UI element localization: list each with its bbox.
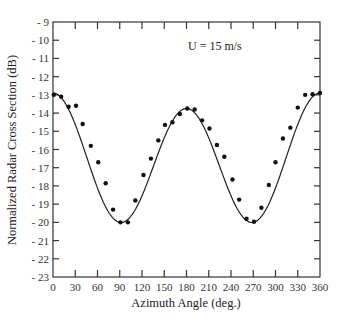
data-point: [230, 177, 234, 181]
x-tick-label: 150: [156, 281, 173, 293]
data-point: [185, 106, 189, 110]
plot-frame: [53, 22, 320, 277]
data-point: [288, 125, 292, 129]
data-point: [163, 123, 167, 127]
fit-curve: [53, 93, 320, 222]
x-tick-label: 180: [178, 281, 195, 293]
data-point: [178, 112, 182, 116]
data-point: [237, 197, 241, 201]
data-point: [80, 122, 84, 126]
data-point: [296, 105, 300, 109]
y-tick-label: - 18: [32, 180, 50, 192]
x-tick-label: 270: [245, 281, 262, 293]
x-tick-label: 210: [201, 281, 218, 293]
data-point: [207, 126, 211, 130]
y-tick-label: - 11: [32, 52, 49, 64]
y-tick-label: - 9: [37, 16, 49, 28]
data-point: [103, 181, 107, 185]
y-tick-label: - 12: [32, 71, 49, 83]
data-point: [200, 118, 204, 122]
y-tick-label: - 13: [32, 89, 50, 101]
data-point: [118, 220, 122, 224]
data-point: [133, 198, 137, 202]
x-tick-label: 240: [223, 281, 240, 293]
data-point: [89, 144, 93, 148]
data-point: [273, 160, 277, 164]
y-tick-label: - 16: [32, 144, 50, 156]
data-point: [222, 155, 226, 159]
x-tick-label: 30: [70, 281, 82, 293]
data-point: [259, 206, 263, 210]
data-point: [52, 93, 56, 97]
data-point: [96, 160, 100, 164]
y-tick-label: - 20: [32, 216, 50, 228]
x-tick-label: 60: [92, 281, 104, 293]
data-point: [318, 91, 322, 95]
data-point: [141, 173, 145, 177]
y-axis-label: Normalized Radar Cross Section (dB): [5, 55, 19, 245]
data-point: [252, 220, 256, 224]
x-axis-ticks: 0306090120150180210240270300330360: [50, 22, 329, 293]
x-axis-label: Azimuth Angle (deg.): [131, 296, 240, 310]
data-point: [303, 93, 307, 97]
y-tick-label: - 10: [32, 34, 50, 46]
x-tick-label: 360: [312, 281, 329, 293]
y-tick-label: - 22: [32, 253, 49, 265]
data-point: [267, 183, 271, 187]
y-tick-label: - 19: [32, 198, 50, 210]
y-tick-label: - 21: [32, 235, 49, 247]
x-tick-label: 0: [50, 281, 56, 293]
x-tick-label: 120: [134, 281, 151, 293]
y-tick-label: - 14: [32, 107, 50, 119]
data-points: [52, 91, 323, 225]
y-tick-label: - 23: [32, 271, 50, 283]
data-point: [156, 138, 160, 142]
rcs-chart: - 9- 10- 11- 12- 13- 14- 15- 16- 17- 18-…: [0, 0, 341, 322]
data-point: [74, 104, 78, 108]
y-axis-ticks: - 9- 10- 11- 12- 13- 14- 15- 16- 17- 18-…: [32, 16, 320, 283]
x-tick-label: 330: [290, 281, 307, 293]
data-point: [244, 217, 248, 221]
data-point: [215, 143, 219, 147]
data-point: [192, 107, 196, 111]
data-point: [59, 94, 63, 98]
data-point: [126, 220, 130, 224]
y-tick-label: - 17: [32, 162, 50, 174]
data-point: [281, 136, 285, 140]
y-tick-label: - 15: [32, 125, 50, 137]
data-point: [111, 207, 115, 211]
data-point: [170, 120, 174, 124]
data-point: [149, 156, 153, 160]
annotation-wind-speed: U = 15 m/s: [188, 39, 242, 53]
data-point: [66, 105, 70, 109]
x-tick-label: 300: [267, 281, 284, 293]
x-tick-label: 90: [114, 281, 126, 293]
data-point: [310, 92, 314, 96]
